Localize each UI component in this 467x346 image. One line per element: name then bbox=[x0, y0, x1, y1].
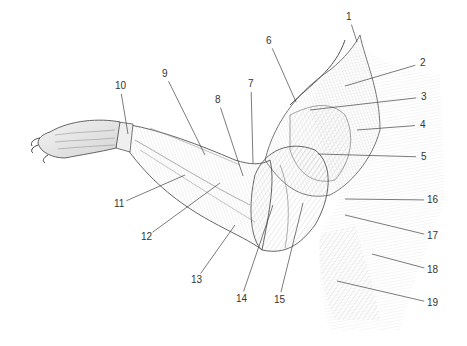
forelimb-muscle-illustration bbox=[0, 0, 467, 346]
label-6: 6 bbox=[266, 36, 272, 46]
claw bbox=[32, 145, 38, 153]
label-17: 17 bbox=[427, 231, 438, 241]
label-19: 19 bbox=[427, 298, 438, 308]
label-18: 18 bbox=[427, 265, 438, 275]
label-14: 14 bbox=[236, 294, 247, 304]
label-10: 10 bbox=[115, 81, 126, 91]
label-1: 1 bbox=[346, 12, 352, 22]
label-8: 8 bbox=[215, 95, 221, 105]
label-13: 13 bbox=[191, 275, 202, 285]
label-16: 16 bbox=[427, 195, 438, 205]
paw bbox=[38, 120, 120, 158]
claw bbox=[43, 155, 48, 163]
label-11: 11 bbox=[114, 199, 124, 209]
label-4: 4 bbox=[420, 120, 426, 130]
label-9: 9 bbox=[162, 69, 168, 79]
leader-line-1 bbox=[351, 25, 357, 42]
label-5: 5 bbox=[421, 152, 427, 162]
label-15: 15 bbox=[274, 295, 285, 305]
label-2: 2 bbox=[420, 58, 426, 68]
anatomy-diagram: 12345678910111213141516171819 bbox=[0, 0, 467, 346]
leader-line-13 bbox=[201, 225, 235, 273]
leader-line-7 bbox=[251, 92, 253, 163]
leader-line-6 bbox=[272, 48, 296, 102]
label-7: 7 bbox=[248, 79, 254, 89]
label-12: 12 bbox=[141, 232, 152, 242]
label-3: 3 bbox=[421, 92, 427, 102]
